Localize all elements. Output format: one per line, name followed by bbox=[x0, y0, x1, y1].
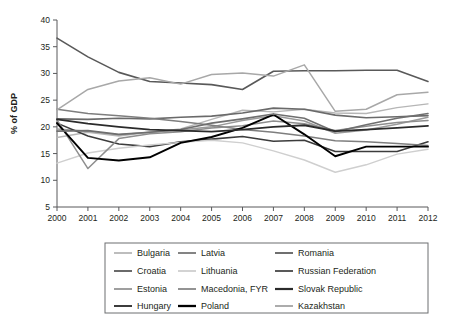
legend-item[interactable]: Bulgaria bbox=[114, 248, 170, 258]
legend-label: Russian Federation bbox=[298, 266, 376, 276]
y-tick-label: 10 bbox=[41, 175, 51, 185]
legend-label: Romania bbox=[298, 248, 334, 258]
y-axis: 510152025303540 bbox=[41, 15, 57, 212]
x-tick-label: 2009 bbox=[326, 213, 345, 223]
x-tick-label: 2002 bbox=[109, 213, 128, 223]
chart-legend: BulgariaLatviaRomaniaCroatiaLithuaniaRus… bbox=[105, 243, 428, 313]
y-tick-label: 30 bbox=[41, 68, 51, 78]
legend-label: Slovak Republic bbox=[298, 284, 363, 294]
x-tick-label: 2004 bbox=[171, 213, 190, 223]
legend-label: Kazakhstan bbox=[298, 301, 345, 311]
legend-item[interactable]: Estonia bbox=[114, 284, 167, 294]
legend-item[interactable]: Slovak Republic bbox=[275, 284, 363, 294]
chart-container: 510152025303540 200020012002200320042005… bbox=[0, 0, 449, 323]
legend-label: Poland bbox=[201, 301, 229, 311]
legend-label: Croatia bbox=[137, 266, 166, 276]
x-axis: 2000200120022003200420052006200720082009… bbox=[48, 207, 438, 223]
legend-item[interactable]: Poland bbox=[178, 301, 229, 311]
x-tick-label: 2007 bbox=[264, 213, 283, 223]
legend-item[interactable]: Romania bbox=[275, 248, 334, 258]
y-tick-label: 40 bbox=[41, 15, 51, 25]
legend-label: Latvia bbox=[201, 248, 225, 258]
y-tick-label: 35 bbox=[41, 42, 51, 52]
x-tick-label: 2001 bbox=[78, 213, 97, 223]
legend-item[interactable]: Kazakhstan bbox=[275, 301, 345, 311]
legend-label: Macedonia, FYR bbox=[201, 284, 269, 294]
x-tick-label: 2006 bbox=[233, 213, 252, 223]
legend-label: Bulgaria bbox=[137, 248, 170, 258]
series-lines bbox=[57, 38, 428, 172]
legend-label: Estonia bbox=[137, 284, 167, 294]
series-line bbox=[57, 114, 428, 135]
x-tick-label: 2008 bbox=[295, 213, 314, 223]
x-tick-label: 2000 bbox=[48, 213, 67, 223]
x-tick-label: 2012 bbox=[419, 213, 438, 223]
legend-item[interactable]: Hungary bbox=[114, 301, 172, 311]
x-tick-label: 2010 bbox=[357, 213, 376, 223]
y-tick-label: 15 bbox=[41, 149, 51, 159]
legend-item[interactable]: Russian Federation bbox=[275, 266, 376, 276]
legend-item[interactable]: Macedonia, FYR bbox=[178, 284, 269, 294]
series-line bbox=[57, 115, 428, 161]
x-tick-label: 2011 bbox=[388, 213, 407, 223]
legend-item[interactable]: Croatia bbox=[114, 266, 166, 276]
y-tick-label: 25 bbox=[41, 95, 51, 105]
y-axis-title-text: % of GDP bbox=[9, 93, 19, 134]
x-tick-label: 2003 bbox=[140, 213, 159, 223]
line-chart: 510152025303540 200020012002200320042005… bbox=[0, 0, 449, 323]
x-tick-label: 2005 bbox=[202, 213, 221, 223]
y-axis-title: % of GDP bbox=[9, 93, 19, 134]
y-tick-label: 5 bbox=[45, 202, 50, 212]
legend-label: Lithuania bbox=[201, 266, 238, 276]
legend-item[interactable]: Lithuania bbox=[178, 266, 238, 276]
y-tick-label: 20 bbox=[41, 122, 51, 132]
series-line bbox=[57, 65, 428, 111]
series-line bbox=[57, 38, 428, 89]
legend-item[interactable]: Latvia bbox=[178, 248, 225, 258]
legend-label: Hungary bbox=[137, 301, 172, 311]
